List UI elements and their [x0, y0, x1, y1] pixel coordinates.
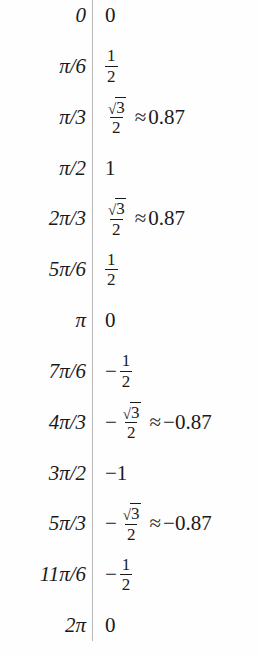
- angle-cell: π/2: [0, 158, 86, 179]
- value-cell: −1: [105, 463, 127, 484]
- fraction-numerator: 1: [120, 556, 133, 575]
- value-cell: −12: [105, 352, 132, 390]
- approx-value: 0.87: [148, 208, 185, 229]
- value-cell: √32≈0.87: [105, 199, 185, 238]
- radicand: 3: [115, 97, 126, 117]
- table-row: 5π/3−√32≈−0.87: [0, 499, 258, 550]
- table-row: 2π/3√32≈0.87: [0, 194, 258, 245]
- value-cell: 0: [105, 615, 116, 636]
- angle-cell: 5π/6: [0, 259, 86, 280]
- fraction-denominator: 2: [120, 371, 133, 391]
- fraction-numerator: 1: [120, 352, 133, 371]
- table-row: 7π/6−12: [0, 346, 258, 397]
- minus-sign: −: [105, 361, 117, 382]
- approx-symbol: ≈: [135, 107, 147, 128]
- value-plain: −1: [105, 463, 127, 484]
- radical-icon: √3: [107, 98, 126, 117]
- approx-symbol: ≈: [150, 513, 162, 534]
- angle-cell: 5π/3: [0, 513, 86, 534]
- fraction-denominator: 2: [120, 574, 133, 594]
- fraction-numerator: 1: [105, 251, 118, 270]
- value-cell: 0: [105, 310, 116, 331]
- angle-cell: π: [0, 310, 86, 331]
- value-cell: −√32≈−0.87: [105, 504, 212, 543]
- angle-cell: 7π/6: [0, 361, 86, 382]
- fraction-denominator: 2: [125, 524, 138, 544]
- fraction: 12: [120, 352, 133, 390]
- radicand: 3: [115, 198, 126, 218]
- approx-value: −0.87: [163, 513, 212, 534]
- fraction-denominator: 2: [105, 66, 118, 86]
- fraction-denominator: 2: [125, 422, 138, 442]
- value-cell: 1: [105, 158, 116, 179]
- minus-sign: −: [105, 513, 117, 534]
- radical-icon: √3: [122, 403, 141, 422]
- value-plain: 1: [105, 158, 116, 179]
- angle-cell: π/3: [0, 107, 86, 128]
- angle-cell: 2π/3: [0, 208, 86, 229]
- table-row: 5π/612: [0, 244, 258, 295]
- angle-cell: 11π/6: [0, 564, 86, 585]
- value-cell: −√32≈−0.87: [105, 403, 212, 442]
- radical-glyph: √: [123, 406, 131, 422]
- fraction: √32: [120, 504, 143, 543]
- table-row: 4π/3−√32≈−0.87: [0, 397, 258, 448]
- fraction-numerator: √3: [120, 403, 143, 423]
- value-plain: 0: [105, 310, 116, 331]
- table-row: 00: [0, 0, 258, 41]
- fraction-denominator: 2: [110, 219, 123, 239]
- fraction-numerator: 1: [105, 47, 118, 66]
- fraction: √32: [105, 199, 128, 238]
- fraction-denominator: 2: [105, 269, 118, 289]
- value-cell: 12: [105, 47, 118, 85]
- fraction-numerator: √3: [105, 199, 128, 219]
- table-row: π/21: [0, 143, 258, 194]
- fraction: √32: [105, 98, 128, 137]
- radicand: 3: [130, 402, 141, 422]
- fraction-numerator: √3: [105, 98, 128, 118]
- table-row: π/612: [0, 41, 258, 92]
- radicand: 3: [130, 503, 141, 523]
- radical-icon: √3: [107, 199, 126, 218]
- fraction: 12: [105, 251, 118, 289]
- radical-icon: √3: [122, 504, 141, 523]
- approx-value: 0.87: [148, 107, 185, 128]
- fraction: 12: [120, 556, 133, 594]
- radical-glyph: √: [108, 101, 116, 117]
- minus-sign: −: [105, 412, 117, 433]
- value-cell: 12: [105, 251, 118, 289]
- angle-cell: π/6: [0, 56, 86, 77]
- radical-glyph: √: [108, 202, 116, 218]
- fraction-numerator: √3: [120, 504, 143, 524]
- table-row: π0: [0, 295, 258, 346]
- math-value-table: 00π/612π/3√32≈0.87π/212π/3√32≈0.875π/612…: [0, 0, 258, 656]
- value-cell: 0: [105, 5, 116, 26]
- fraction-denominator: 2: [110, 117, 123, 137]
- radical-glyph: √: [123, 507, 131, 523]
- fraction: √32: [120, 403, 143, 442]
- approx-symbol: ≈: [135, 208, 147, 229]
- angle-cell: 3π/2: [0, 463, 86, 484]
- angle-cell: 2π: [0, 615, 86, 636]
- approx-symbol: ≈: [150, 412, 162, 433]
- angle-cell: 4π/3: [0, 412, 86, 433]
- table-row: π/3√32≈0.87: [0, 92, 258, 143]
- angle-cell: 0: [0, 5, 86, 26]
- table-row: 11π/6−12: [0, 549, 258, 600]
- value-plain: 0: [105, 5, 116, 26]
- value-cell: −12: [105, 556, 132, 594]
- value-cell: √32≈0.87: [105, 98, 185, 137]
- value-plain: 0: [105, 615, 116, 636]
- approx-value: −0.87: [163, 412, 212, 433]
- fraction: 12: [105, 47, 118, 85]
- table-row: 2π0: [0, 600, 258, 651]
- minus-sign: −: [105, 564, 117, 585]
- table-row: 3π/2−1: [0, 448, 258, 499]
